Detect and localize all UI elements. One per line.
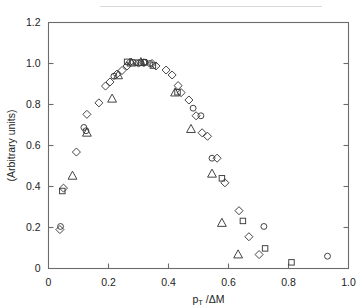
data-point-diamond [235, 207, 243, 215]
data-point-square [289, 260, 294, 265]
y-tick-label: 0 [35, 262, 41, 274]
y-tick-label: 1.0 [26, 57, 41, 69]
figure-container: 00.20.40.60.81.01.200.20.40.60.81.0pT /Δ… [0, 0, 362, 308]
axes-layer [49, 23, 349, 269]
data-point-triangle [234, 250, 243, 258]
data-point-circle [198, 113, 204, 119]
data-point-circle [209, 155, 215, 161]
series-circles [58, 59, 331, 259]
scan-artifact-line [100, 6, 322, 7]
x-tick-label: 1.0 [341, 276, 356, 288]
data-point-circle [190, 105, 196, 111]
plot-frame [49, 23, 349, 269]
y-tick-label: 0.8 [26, 98, 41, 110]
data-point-triangle [218, 218, 227, 226]
y-tick-label: 0.4 [26, 180, 41, 192]
data-point-diamond [255, 251, 263, 259]
y-tick-label: 1.2 [26, 16, 41, 28]
series-diamonds [56, 58, 263, 258]
data-point-circle [261, 224, 267, 230]
data-point-triangle [187, 124, 196, 132]
data-point-diamond [101, 82, 109, 90]
x-tick-label: 0 [46, 276, 52, 288]
data-point-diamond [192, 112, 200, 120]
x-tick-label: 0.2 [101, 276, 116, 288]
y-axis-title: (Arbitrary units) [5, 110, 17, 182]
x-tick-label: 0.4 [161, 276, 176, 288]
series-triangles [68, 58, 242, 258]
data-point-square [240, 218, 245, 223]
data-point-diamond [83, 110, 91, 118]
markers-layer [56, 58, 331, 265]
data-point-diamond [213, 154, 221, 162]
y-tick-label: 0.2 [26, 221, 41, 233]
data-point-diamond [95, 99, 103, 107]
data-point-diamond [72, 148, 80, 156]
y-tick-label: 0.6 [26, 139, 41, 151]
data-point-diamond [198, 129, 206, 137]
data-point-triangle [208, 169, 217, 177]
data-point-circle [325, 253, 331, 259]
series-squares [60, 59, 295, 265]
x-tick-label: 0.6 [221, 276, 236, 288]
data-point-square [262, 246, 267, 251]
x-tick-label: 0.8 [281, 276, 296, 288]
data-point-diamond [168, 71, 176, 79]
x-axis-title: pT /ΔM [192, 293, 224, 308]
data-point-diamond [162, 66, 170, 74]
data-point-triangle [68, 171, 77, 179]
data-point-diamond [185, 96, 193, 104]
scatter-plot-svg: 00.20.40.60.81.01.200.20.40.60.81.0pT /Δ… [0, 0, 362, 308]
data-point-diamond [245, 233, 253, 241]
data-point-triangle [108, 94, 117, 102]
labels-layer: 00.20.40.60.81.01.200.20.40.60.81.0pT /Δ… [5, 16, 356, 307]
data-point-diamond [203, 132, 211, 140]
